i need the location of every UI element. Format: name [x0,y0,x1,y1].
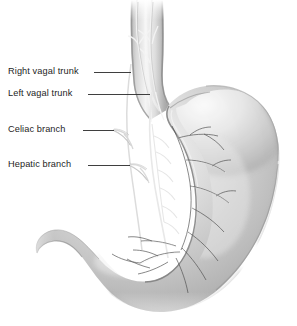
label-hepatic-branch: Hepatic branch [8,159,71,169]
annotation-labels: Right vagal trunk Left vagal trunk Celia… [0,0,297,326]
label-right-vagal-trunk: Right vagal trunk [8,66,79,76]
label-celiac-branch: Celiac branch [8,124,65,134]
illustration-figure: Right vagal trunk Left vagal trunk Celia… [0,0,297,326]
label-left-vagal-trunk: Left vagal trunk [8,88,72,98]
